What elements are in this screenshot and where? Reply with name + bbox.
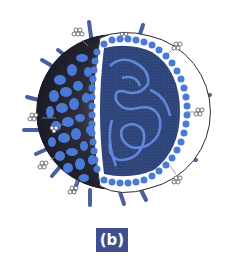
virus-diagram xyxy=(0,0,228,215)
figure-label-text: (b) xyxy=(100,233,124,248)
figure-label: (b) xyxy=(96,228,128,252)
